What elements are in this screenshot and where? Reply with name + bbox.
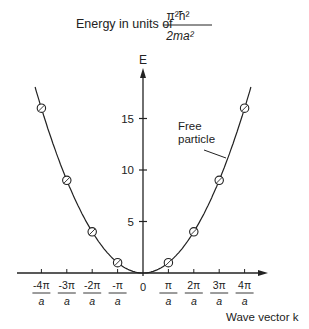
x-tick-numerator: -3π [59, 279, 76, 291]
x-axis-arrow-icon [258, 270, 268, 276]
annotation-free: Free [178, 120, 202, 132]
x-tick-denominator: a [191, 295, 197, 307]
y-tick-label: 5 [128, 216, 134, 228]
y-axis-arrow-icon [140, 68, 146, 78]
x-tick-numerator: -4π [33, 279, 50, 291]
x-tick-denominator: a [115, 295, 121, 307]
x-tick-denominator: a [216, 295, 222, 307]
dispersion-chart: Energy in units of π²ħ² 2ma² E 51015 -4π… [0, 0, 309, 329]
title-numerator: π²ħ² [167, 9, 190, 23]
x-tick-numerator: π [165, 279, 172, 291]
x-tick-denominator: a [165, 295, 171, 307]
x-tick-denominator: a [38, 295, 44, 307]
y-axis-label: E [139, 53, 147, 67]
annotation-particle: particle [178, 133, 215, 145]
annotation-pointer [204, 150, 226, 158]
y-tick-label: 10 [121, 164, 134, 176]
x-tick-denominator: a [89, 295, 95, 307]
x-tick-zero: 0 [140, 281, 146, 293]
x-tick-denominator: a [242, 295, 248, 307]
title-prefix: Energy in units of [76, 17, 173, 31]
x-tick-numerator: -π [112, 279, 123, 291]
x-tick-numerator: 4π [238, 279, 251, 291]
x-tick-numerator: -2π [84, 279, 101, 291]
x-tick-denominator: a [64, 295, 70, 307]
title-denominator: 2ma² [165, 29, 194, 43]
x-tick-numerator: 3π [213, 279, 226, 291]
x-tick-numerator: 2π [187, 279, 200, 291]
y-tick-label: 15 [121, 113, 134, 125]
x-axis-label: Wave vector k [226, 311, 299, 323]
